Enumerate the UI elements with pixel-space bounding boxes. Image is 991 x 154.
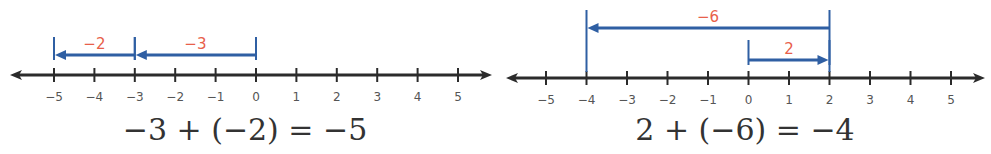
jump-arrowhead-icon	[818, 55, 829, 65]
tick-label: 4	[907, 93, 915, 107]
tick-label: −5	[537, 93, 555, 107]
tick-label: −3	[618, 93, 636, 107]
jump-label: 2	[784, 40, 794, 58]
tick-label: 1	[785, 93, 793, 107]
tick-label: 2	[826, 93, 834, 107]
jump-arrowhead-icon	[588, 23, 599, 33]
equation-right: 2 + (−6) = −4	[635, 112, 854, 147]
tick-label: 5	[947, 93, 955, 107]
tick-label: 3	[866, 93, 874, 107]
number-line-panel-right: −5−4−3−2−10123452−6 2 + (−6) = −4	[0, 0, 991, 154]
tick-label: −4	[578, 93, 596, 107]
tick-label: 0	[745, 93, 753, 107]
jump-label: −6	[697, 8, 719, 26]
tick-label: −1	[699, 93, 717, 107]
tick-label: −2	[659, 93, 677, 107]
